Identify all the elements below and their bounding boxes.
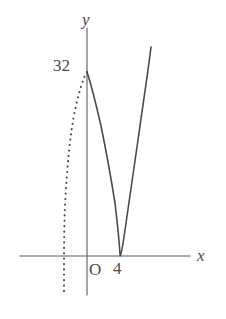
y-intercept-label: 32 [53,57,70,74]
y-axis-label: y [82,11,90,28]
dotted-curve-branch [64,72,87,296]
x-axis-label: x [197,247,205,264]
solid-curve-branch [87,47,151,256]
origin-label: O [89,261,101,278]
cubic-graph-figure: y x 32 O 4 [0,0,226,319]
x-tangent-label: 4 [113,260,122,277]
